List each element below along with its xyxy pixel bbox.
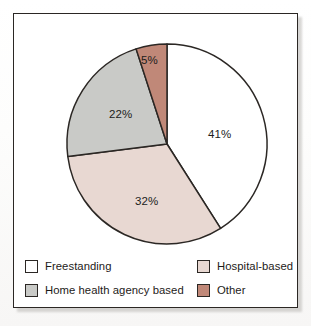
legend-swatch-other bbox=[197, 284, 210, 297]
legend-item-other[interactable]: Other bbox=[197, 284, 293, 297]
legend-swatch-home-health-agency-based bbox=[25, 284, 38, 297]
legend-label-hospital-based: Hospital-based bbox=[217, 260, 293, 272]
pie-slice-group bbox=[67, 44, 267, 244]
pie-slice-value-freestanding: 41% bbox=[208, 128, 231, 140]
legend-item-freestanding[interactable]: Freestanding bbox=[25, 260, 197, 273]
pie-chart bbox=[14, 14, 299, 246]
legend-item-home-health-agency-based[interactable]: Home health agency based bbox=[25, 284, 197, 297]
chart-legend: Freestanding Hospital-based Home health … bbox=[14, 250, 299, 307]
figure-frame: 41%32%22%5% Freestanding Hospital-based … bbox=[13, 13, 298, 308]
pie-slice-value-home-health-agency-based: 22% bbox=[109, 108, 132, 120]
pie-slice-value-other: 5% bbox=[141, 54, 158, 66]
pie-slice-value-hospital-based: 32% bbox=[135, 195, 158, 207]
legend-label-home-health-agency-based: Home health agency based bbox=[45, 284, 184, 296]
legend-swatch-hospital-based bbox=[197, 260, 210, 273]
legend-item-hospital-based[interactable]: Hospital-based bbox=[197, 260, 293, 273]
pie-chart-area: 41%32%22%5% bbox=[14, 14, 299, 246]
legend-label-other: Other bbox=[217, 284, 246, 296]
legend-swatch-freestanding bbox=[25, 260, 38, 273]
legend-label-freestanding: Freestanding bbox=[45, 260, 112, 272]
